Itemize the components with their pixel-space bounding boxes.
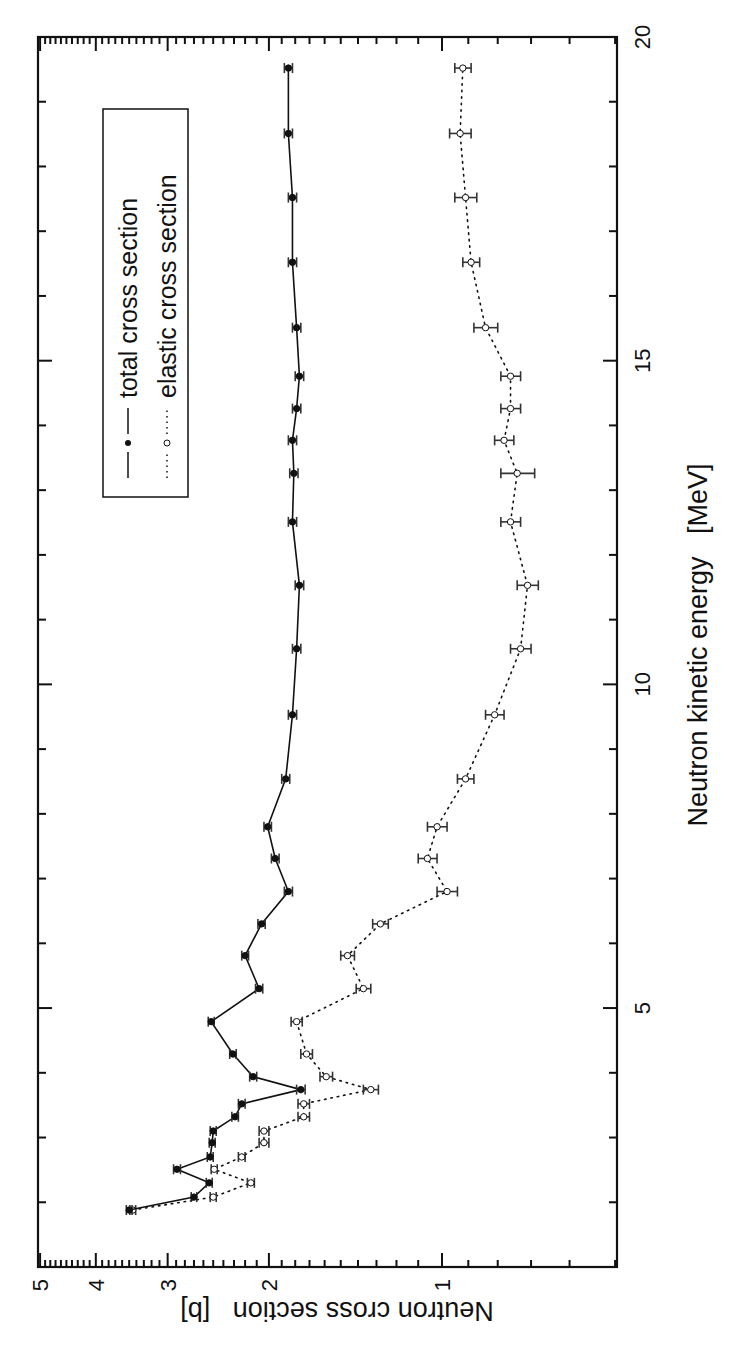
data-point-filled-circle-icon: [174, 1166, 180, 1172]
data-point-open-circle-icon: [211, 1166, 217, 1172]
data-point-filled-circle-icon: [298, 1086, 304, 1092]
data-point-filled-circle-icon: [285, 130, 291, 136]
data-point-filled-circle-icon: [293, 324, 299, 330]
data-point-open-circle-icon: [507, 405, 513, 411]
data-point-open-circle-icon: [293, 1018, 299, 1024]
energy-axis-title: Neutron kinetic energy [MeV]: [683, 463, 713, 826]
data-point-open-circle-icon: [261, 1140, 267, 1146]
energy-tick-label: 10: [630, 672, 655, 696]
data-point-open-circle-icon: [507, 373, 513, 379]
data-point-filled-circle-icon: [256, 985, 262, 991]
data-point-open-circle-icon: [424, 855, 430, 861]
data-point-filled-circle-icon: [264, 824, 270, 830]
data-point-filled-circle-icon: [232, 1114, 238, 1120]
data-point-filled-circle-icon: [242, 952, 248, 958]
data-point-open-circle-icon: [300, 1114, 306, 1120]
cross-section-chart: 5101520 54321 Neutron kinetic energy [Me…: [0, 0, 731, 1357]
data-point-open-circle-icon: [434, 824, 440, 830]
data-point-filled-circle-icon: [289, 712, 295, 718]
cross-section-tick-label: 5: [28, 1279, 53, 1291]
cross-section-tick-labels: 54321: [28, 1279, 455, 1291]
data-point-filled-circle-icon: [293, 405, 299, 411]
data-point-open-circle-icon: [300, 1101, 306, 1107]
data-point-filled-circle-icon: [126, 1207, 132, 1213]
data-point-open-circle-icon: [360, 985, 366, 991]
data-point-open-circle-icon: [457, 130, 463, 136]
data-point-filled-circle-icon: [285, 888, 291, 894]
data-point-filled-circle-icon: [289, 259, 295, 265]
energy-tick-label: 15: [630, 348, 655, 372]
data-point-open-circle-icon: [444, 888, 450, 894]
elastic-line: [133, 68, 528, 1210]
data-point-filled-circle-icon: [239, 1101, 245, 1107]
data-point-open-circle-icon: [239, 1154, 245, 1160]
data-point-open-circle-icon: [323, 1073, 329, 1079]
data-point-filled-circle-icon: [210, 1128, 216, 1134]
data-point-filled-circle-icon: [191, 1194, 197, 1200]
cross-section-tick-label: 2: [257, 1279, 282, 1291]
data-point-filled-circle-icon: [293, 646, 299, 652]
data-point-open-circle-icon: [491, 712, 497, 718]
legend-label-total: total cross section: [114, 198, 142, 398]
data-point-filled-circle-icon: [209, 1140, 215, 1146]
cross-section-axis-title: Neutron cross section [b]: [180, 1296, 494, 1326]
data-point-open-circle-icon: [514, 470, 520, 476]
data-point-open-circle-icon: [248, 1180, 254, 1186]
data-point-open-circle-icon: [501, 437, 507, 443]
data-point-open-circle-icon: [303, 1051, 309, 1057]
energy-tick-label: 5: [630, 1002, 655, 1014]
data-point-open-circle-icon: [460, 65, 466, 71]
data-point-filled-circle-icon: [285, 65, 291, 71]
data-point-filled-circle-icon: [296, 373, 302, 379]
series-elastic-cross-section: [130, 63, 539, 1215]
cross-section-tick-label: 4: [84, 1279, 109, 1291]
data-point-filled-circle-icon: [230, 1051, 236, 1057]
data-point-open-circle-icon: [468, 259, 474, 265]
data-point-open-circle-icon: [368, 1086, 374, 1092]
data-point-open-circle-icon: [462, 776, 468, 782]
data-point-filled-circle-icon: [296, 582, 302, 588]
data-point-open-circle-icon: [517, 646, 523, 652]
data-point-open-circle-icon: [377, 921, 383, 927]
cross-section-tick-label: 3: [156, 1279, 181, 1291]
legend: total cross section elastic cross sectio…: [103, 109, 188, 497]
data-point-open-circle-icon: [210, 1194, 216, 1200]
data-point-filled-circle-icon: [206, 1180, 212, 1186]
legend-label-elastic: elastic cross section: [153, 174, 181, 398]
data-point-filled-circle-icon: [291, 470, 297, 476]
cross-section-tick-label: 1: [430, 1279, 455, 1291]
data-point-open-circle-icon: [462, 194, 468, 200]
data-point-open-circle-icon: [261, 1128, 267, 1134]
data-point-filled-circle-icon: [289, 437, 295, 443]
data-point-open-circle-icon: [507, 519, 513, 525]
legend-marker-filled-circle-icon: [125, 440, 131, 446]
data-point-filled-circle-icon: [250, 1073, 256, 1079]
data-point-filled-circle-icon: [289, 519, 295, 525]
energy-tick-label: 20: [630, 25, 655, 49]
data-point-filled-circle-icon: [258, 921, 264, 927]
data-point-filled-circle-icon: [208, 1018, 214, 1024]
data-point-open-circle-icon: [344, 952, 350, 958]
data-point-filled-circle-icon: [207, 1154, 213, 1160]
data-point-filled-circle-icon: [272, 855, 278, 861]
energy-tick-labels: 5101520: [630, 25, 655, 1014]
data-point-open-circle-icon: [482, 324, 488, 330]
legend-marker-open-circle-icon: [164, 440, 170, 446]
data-point-filled-circle-icon: [289, 194, 295, 200]
data-point-open-circle-icon: [524, 582, 530, 588]
data-point-filled-circle-icon: [282, 776, 288, 782]
